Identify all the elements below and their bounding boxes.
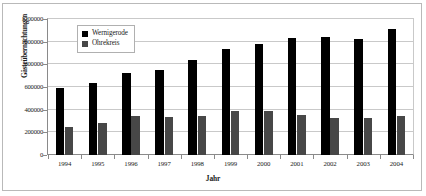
bar-group: [247, 19, 280, 155]
bar-group: [148, 19, 181, 155]
x-axis-tick-label: 1996: [114, 161, 147, 168]
x-axis-tick-mark: [280, 155, 281, 159]
x-axis-tick-label: 2000: [247, 161, 280, 168]
x-axis-tick-mark: [380, 155, 381, 159]
x-axis-tick-mark: [181, 155, 182, 159]
legend-label: Ohrekreis: [92, 40, 119, 47]
bar-wernigerode-2000: [255, 44, 264, 155]
legend-swatch-icon: [82, 31, 88, 37]
bar-group: [181, 19, 214, 155]
bar-wernigerode-1999: [222, 49, 231, 155]
bar-ohrekreis-2002: [330, 118, 339, 155]
bar-ohrekreis-2000: [264, 111, 273, 155]
bar-wernigerode-1995: [89, 83, 98, 155]
bar-wernigerode-2002: [321, 37, 330, 155]
chart-figure: Gästeübernachtungen 02000004000006000008…: [0, 0, 426, 196]
x-axis-tick-label: 2002: [313, 161, 346, 168]
y-axis-tick-label: 800000: [24, 61, 43, 68]
y-axis-tick-label: 1000000: [21, 38, 43, 45]
y-axis-tick-label: 200000: [24, 129, 43, 136]
bar-wernigerode-1998: [188, 60, 197, 155]
bar-group: [380, 19, 413, 155]
bar-group: [313, 19, 346, 155]
x-axis-tick-label: 1998: [181, 161, 214, 168]
bar-group: [347, 19, 380, 155]
x-axis-tick-mark: [347, 155, 348, 159]
bar-group: [214, 19, 247, 155]
x-axis-tick-label: 1997: [148, 161, 181, 168]
x-axis-tick-mark: [48, 155, 49, 159]
bar-ohrekreis-2004: [397, 116, 406, 155]
bar-wernigerode-2004: [388, 29, 397, 155]
y-axis-tick-label: 1200000: [21, 16, 43, 23]
x-axis-tick-label: 2003: [347, 161, 380, 168]
bar-wernigerode-1996: [122, 73, 131, 155]
x-axis-tick-label: 1995: [81, 161, 114, 168]
bar-ohrekreis-1999: [231, 111, 240, 155]
x-axis-tick-mark: [247, 155, 248, 159]
x-axis-tick-label: 2004: [380, 161, 413, 168]
x-axis-tick-mark: [214, 155, 215, 159]
bar-ohrekreis-2003: [364, 118, 373, 155]
x-axis-tick-mark: [313, 155, 314, 159]
bar-group: [280, 19, 313, 155]
x-axis-tick-mark: [413, 155, 414, 159]
y-axis-tick-mark: [43, 155, 47, 156]
x-axis-title: Jahr: [0, 174, 426, 183]
bar-ohrekreis-1998: [198, 116, 207, 155]
x-axis-tick-mark: [81, 155, 82, 159]
y-axis-tick-label: 600000: [24, 84, 43, 91]
bar-ohrekreis-1997: [165, 117, 174, 155]
chart-legend: WernigerodeOhrekreis: [77, 25, 135, 53]
bar-wernigerode-2001: [288, 38, 297, 155]
legend-item: Ohrekreis: [82, 39, 128, 49]
x-axis-tick-label: 1994: [48, 161, 81, 168]
bar-wernigerode-1997: [155, 70, 164, 155]
legend-item: Wernigerode: [82, 29, 128, 39]
bar-ohrekreis-2001: [297, 115, 306, 155]
bar-ohrekreis-1995: [98, 123, 107, 155]
legend-label: Wernigerode: [92, 30, 128, 37]
bar-ohrekreis-1996: [131, 116, 140, 155]
x-axis-tick-mark: [148, 155, 149, 159]
x-axis-tick-label: 2001: [280, 161, 313, 168]
bar-wernigerode-2003: [354, 39, 363, 155]
x-axis-tick-label: 1999: [214, 161, 247, 168]
legend-swatch-icon: [82, 41, 88, 47]
bar-wernigerode-1994: [56, 88, 65, 155]
y-axis-tick-label: 400000: [24, 106, 43, 113]
x-axis-tick-mark: [114, 155, 115, 159]
bar-ohrekreis-1994: [65, 127, 74, 155]
